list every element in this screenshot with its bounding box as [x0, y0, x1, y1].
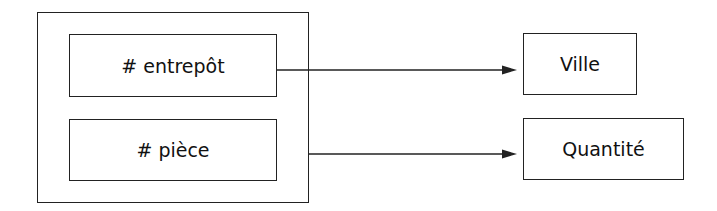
dependency-arrows — [0, 0, 717, 211]
arrowhead-icon — [502, 66, 517, 75]
arrowhead-icon — [502, 150, 517, 159]
